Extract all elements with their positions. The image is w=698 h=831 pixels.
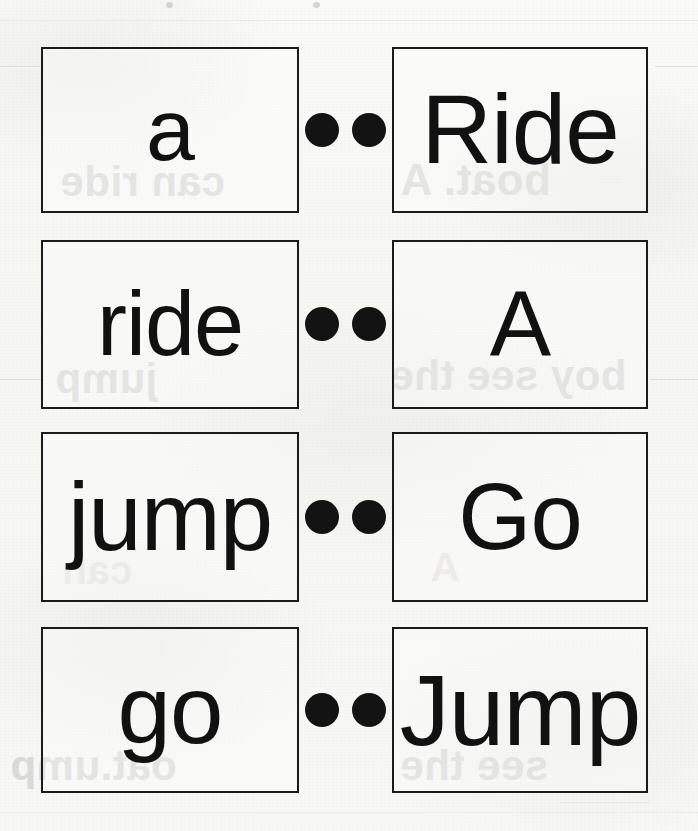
word-card-label: Jump — [400, 663, 641, 758]
match-dot-right[interactable] — [352, 307, 386, 341]
match-dot-right[interactable] — [352, 500, 386, 534]
word-card-label: Ride — [421, 83, 619, 176]
word-card-label: go — [118, 664, 223, 755]
word-card-left[interactable]: go — [41, 627, 299, 793]
match-dot-right[interactable] — [352, 693, 386, 727]
word-card-right[interactable]: Ride — [392, 47, 648, 213]
word-card-left[interactable]: a — [41, 47, 299, 213]
match-dot-left[interactable] — [305, 307, 339, 341]
worksheet-page: can ride boat. A jump boy see the can A … — [0, 0, 698, 831]
scan-edge-line — [560, 802, 650, 803]
word-card-label: jump — [68, 471, 272, 562]
scan-edge-line — [0, 66, 40, 67]
match-dot-left[interactable] — [305, 500, 339, 534]
word-card-label: ride — [97, 282, 243, 368]
word-card-right[interactable]: A — [392, 240, 648, 409]
match-dot-left[interactable] — [305, 693, 339, 727]
scan-edge-line — [655, 66, 698, 67]
scan-edge-line — [0, 20, 698, 21]
word-card-right[interactable]: Go — [392, 432, 648, 602]
scan-edge-line — [0, 812, 698, 813]
word-card-left[interactable]: ride — [41, 240, 299, 409]
scan-speck — [313, 2, 320, 8]
scan-edge-line — [650, 379, 698, 380]
word-card-label: A — [490, 281, 550, 368]
word-card-label: Go — [458, 472, 581, 561]
match-dot-right[interactable] — [352, 113, 386, 147]
scan-speck — [166, 2, 173, 8]
word-card-left[interactable]: jump — [41, 432, 299, 602]
scan-edge-line — [0, 379, 44, 380]
word-card-label: a — [146, 88, 194, 172]
word-card-right[interactable]: Jump — [392, 627, 648, 793]
match-dot-left[interactable] — [305, 113, 339, 147]
